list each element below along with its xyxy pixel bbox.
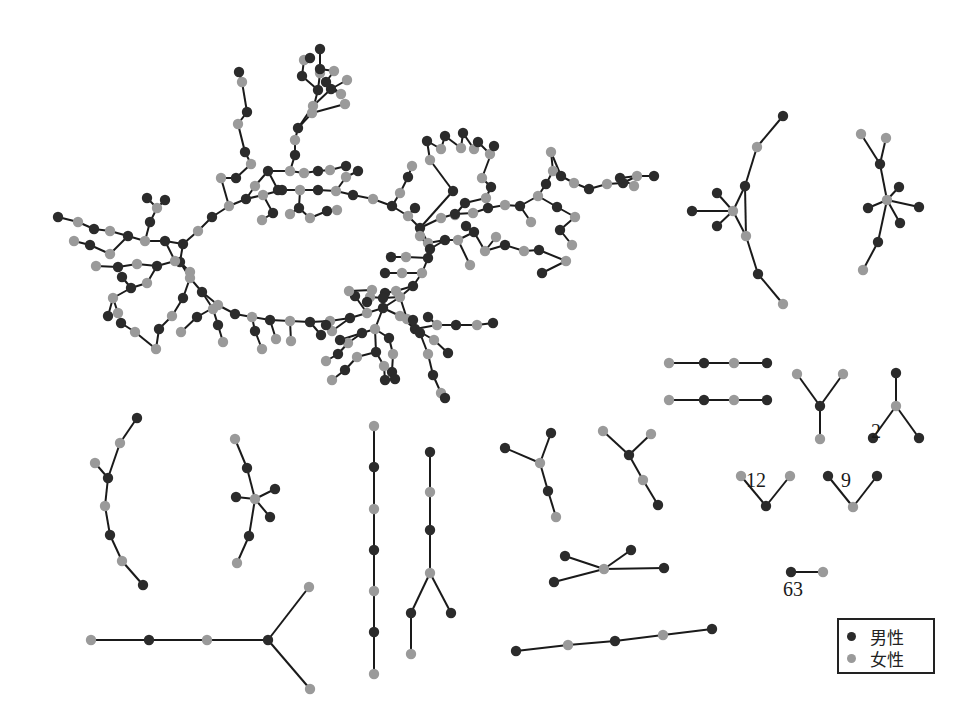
- female-node-giant: [429, 335, 439, 345]
- male-node-giant: [440, 393, 450, 403]
- male-node-vline-fork: [425, 447, 435, 457]
- male-node-giant: [234, 67, 244, 77]
- female-node-arc-right-star: [232, 558, 242, 568]
- male-node-giant: [313, 166, 323, 176]
- female-node-giant: [362, 308, 372, 318]
- male-node-giant: [160, 236, 170, 246]
- female-node-giant: [176, 327, 186, 337]
- female-dot-icon: [847, 654, 856, 663]
- female-node-giant: [480, 246, 490, 256]
- male-node-giant: [207, 212, 217, 222]
- male-node-arc-top-right-1: [753, 269, 763, 279]
- edge-giant-branch: [420, 191, 453, 228]
- female-node-line-b4: [563, 640, 573, 650]
- male-node-arc-top-right-1: [712, 188, 722, 198]
- male-node-giant: [231, 173, 241, 183]
- male-node-giant: [242, 107, 252, 117]
- female-node-giant: [258, 190, 268, 200]
- male-node-giant: [443, 348, 453, 358]
- male-node-giant: [265, 315, 275, 325]
- female-node-giant: [332, 205, 342, 215]
- female-node-giant: [327, 375, 337, 385]
- female-node-giant: [481, 193, 491, 203]
- male-node-giant: [154, 324, 164, 334]
- female-node-giant: [352, 352, 362, 362]
- female-node-vline-1: [369, 669, 379, 679]
- male-node-giant: [584, 184, 594, 194]
- cluster-label: 2: [871, 420, 881, 442]
- male-node-giant: [500, 240, 510, 250]
- male-node-giant: [386, 252, 396, 262]
- female-node-giant: [388, 349, 398, 359]
- male-node-giant: [410, 203, 420, 213]
- male-node-giant: [321, 320, 331, 330]
- female-node-giant: [170, 256, 180, 266]
- male-node-giant: [297, 71, 307, 81]
- female-node-giant: [472, 320, 482, 330]
- female-node-giant: [465, 260, 475, 270]
- female-node-giant: [370, 324, 380, 334]
- female-node-giant: [105, 249, 115, 259]
- legend: 男性 女性: [837, 618, 935, 674]
- female-node-giant: [397, 268, 407, 278]
- edge-giant-branch: [430, 160, 453, 191]
- female-node-y-tree-a: [792, 369, 802, 379]
- male-node-star-b3: [659, 563, 669, 573]
- male-node-arc-top-right-2: [863, 203, 873, 213]
- male-node-giant: [152, 261, 162, 271]
- male-node-hline-fork: [263, 635, 273, 645]
- male-node-arc-left: [103, 473, 113, 483]
- female-node-small-line-2: [664, 395, 674, 405]
- female-node-giant: [91, 261, 101, 271]
- male-node-giant: [451, 320, 461, 330]
- male-node-giant: [313, 85, 323, 95]
- male-node-small-line-1: [699, 358, 709, 368]
- male-node-tree-b2: [653, 500, 663, 510]
- cluster-label: 63: [783, 578, 803, 600]
- edge-arc-top-right-1: [757, 116, 783, 147]
- female-node-giant: [308, 101, 318, 111]
- male-node-giant: [384, 333, 394, 343]
- male-node-hline-fork: [144, 635, 154, 645]
- edge-tree-b1: [505, 448, 540, 463]
- male-node-arc-top-right-2: [873, 237, 883, 247]
- male-node-arc-right-star: [270, 484, 280, 494]
- female-node-giant: [286, 336, 296, 346]
- male-node-giant: [415, 328, 425, 338]
- male-dot-icon: [847, 632, 856, 641]
- female-node-vline-fork: [425, 487, 435, 497]
- female-node-giant: [216, 173, 226, 183]
- cluster-label: 9: [841, 469, 851, 491]
- male-node-giant: [353, 166, 363, 176]
- female-node-giant: [295, 185, 305, 195]
- female-node-small-line-1: [729, 358, 739, 368]
- male-node-giant: [541, 179, 551, 189]
- female-node-giant: [436, 213, 446, 223]
- male-node-v-9: [823, 471, 833, 481]
- female-node-giant: [237, 77, 247, 87]
- female-node-giant: [69, 236, 79, 246]
- female-node-giant: [436, 144, 446, 154]
- male-node-arc-left: [138, 580, 148, 590]
- edge-star-b3: [565, 556, 604, 569]
- female-node-giant: [167, 311, 177, 321]
- female-node-giant: [432, 320, 442, 330]
- male-node-giant: [290, 150, 300, 160]
- male-node-vline-1: [369, 627, 379, 637]
- female-node-giant: [453, 235, 463, 245]
- male-node-small-line-2: [699, 395, 709, 405]
- male-node-giant: [390, 374, 400, 384]
- female-node-tree-b2: [646, 429, 656, 439]
- male-node-giant: [341, 161, 351, 171]
- female-node-arc-left: [115, 438, 125, 448]
- male-node-giant: [649, 171, 659, 181]
- male-node-giant: [240, 147, 250, 157]
- female-node-giant: [271, 334, 281, 344]
- male-node-giant: [556, 171, 566, 181]
- male-node-arc-top-right-1: [712, 221, 722, 231]
- male-node-giant: [85, 240, 95, 250]
- male-node-arc-right-star: [244, 531, 254, 541]
- male-node-giant: [440, 131, 450, 141]
- male-node-giant: [89, 224, 99, 234]
- male-node-giant: [315, 44, 325, 54]
